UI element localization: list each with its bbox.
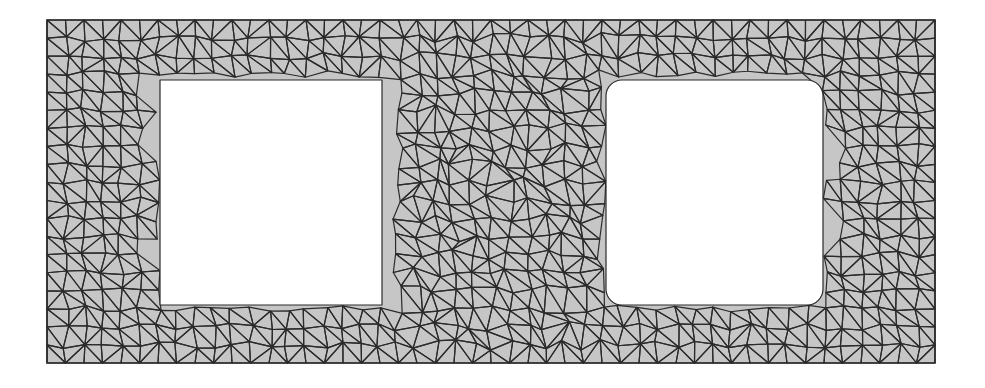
mesh-canvas bbox=[0, 0, 985, 388]
mesh-figure bbox=[0, 0, 985, 388]
